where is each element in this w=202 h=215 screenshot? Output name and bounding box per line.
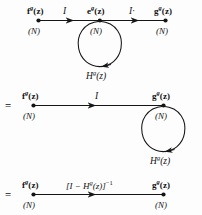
edge-label-e-to-g: I·	[129, 7, 135, 17]
row-1-graph	[36, 18, 167, 66]
node-label-f-row2: fg(z)	[22, 90, 39, 101]
node-dim-f-row2: (N)	[23, 112, 35, 121]
figure-canvas: fg(z) (N) eg(z) (N) gg(z) (N) I I· Hg(z)…	[0, 0, 202, 215]
node-label-g-row2: gg(z)	[152, 90, 170, 101]
arrowhead-self-loop-g-row2	[165, 150, 175, 152]
equals-sign-row2: =	[5, 100, 11, 111]
edge-label-f-to-e: I	[63, 7, 66, 17]
node-dot-f-row3	[31, 192, 35, 196]
row-3-graph	[31, 192, 165, 196]
node-dim-f-row1: (N)	[28, 27, 40, 36]
arrowhead-self-loop-e	[102, 65, 112, 67]
node-label-f-row1: fg(z)	[27, 5, 44, 16]
node-dot-e	[98, 18, 102, 22]
node-dot-g-row2	[161, 103, 165, 107]
node-dim-g-row2: (N)	[155, 112, 167, 121]
node-dot-f-row2	[31, 103, 35, 107]
edge-label-f-to-g-row2: I	[95, 92, 98, 102]
node-dim-g-row1: (N)	[156, 27, 168, 36]
node-dim-f-row3: (N)	[23, 201, 35, 210]
node-dot-g	[163, 18, 167, 22]
loop-label-g-row2: Hg(z)	[150, 155, 170, 167]
node-dim-g-row3: (N)	[155, 201, 167, 210]
node-label-f-row3: fg(z)	[22, 179, 39, 190]
node-dim-e-row1: (N)	[90, 27, 102, 36]
loop-label-e-row1: Hg(z)	[86, 70, 106, 82]
equals-sign-row3: =	[5, 189, 11, 200]
node-label-g-row1: gg(z)	[154, 5, 172, 16]
node-dot-f	[36, 18, 40, 22]
node-label-e-row1: eg(z)	[87, 5, 105, 16]
node-label-g-row3: gg(z)	[152, 179, 170, 190]
edge-label-f-to-g-row3: [I − Hg(z)]−1	[66, 180, 113, 191]
node-dot-g-row3	[161, 192, 165, 196]
